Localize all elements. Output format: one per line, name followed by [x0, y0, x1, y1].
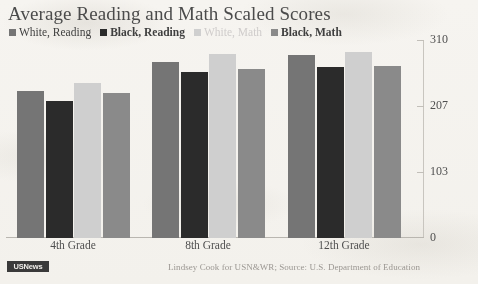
y-axis-tick-mark: [417, 172, 424, 173]
square-swatch-icon: [271, 29, 278, 36]
plot-area: 4th Grade8th Grade12th Grade: [0, 40, 424, 238]
chart-legend: White, ReadingBlack, ReadingWhite, MathB…: [9, 27, 342, 39]
bar-group: [17, 40, 129, 238]
legend-item[interactable]: Black, Math: [271, 27, 342, 39]
bar[interactable]: [103, 93, 130, 238]
bar[interactable]: [46, 101, 73, 238]
bar[interactable]: [209, 54, 236, 238]
bar[interactable]: [17, 91, 44, 238]
legend-item-label: Black, Reading: [110, 27, 185, 39]
y-axis-tick-label: 0: [430, 230, 436, 245]
legend-item-label: Black, Math: [281, 27, 342, 39]
bar[interactable]: [74, 83, 101, 238]
bar[interactable]: [238, 69, 265, 238]
page-title: Average Reading and Math Scaled Scores: [8, 3, 331, 25]
bar-group: [152, 40, 264, 238]
chart-screenshot: Average Reading and Math Scaled Scores W…: [0, 0, 478, 284]
y-axis-tick-label: 103: [430, 164, 448, 179]
y-axis-line: [423, 40, 424, 238]
usnews-logo: USNews: [7, 261, 49, 272]
square-swatch-icon: [9, 29, 16, 36]
bar[interactable]: [374, 66, 401, 238]
bar[interactable]: [345, 52, 372, 238]
legend-item[interactable]: White, Math: [194, 27, 262, 39]
bar[interactable]: [181, 72, 208, 238]
legend-item[interactable]: Black, Reading: [100, 27, 185, 39]
x-axis-group-label: 8th Grade: [152, 239, 264, 251]
chart-credit: Lindsey Cook for USN&WR; Source: U.S. De…: [168, 262, 420, 272]
square-swatch-icon: [100, 29, 107, 36]
legend-item-label: White, Math: [204, 27, 262, 39]
x-axis-group-label: 12th Grade: [288, 239, 400, 251]
legend-item[interactable]: White, Reading: [9, 27, 91, 39]
bar[interactable]: [288, 55, 315, 238]
x-axis-group-label: 4th Grade: [17, 239, 129, 251]
bar[interactable]: [317, 67, 344, 238]
y-axis-tick-mark: [417, 106, 424, 107]
y-axis-tick-label: 207: [430, 98, 448, 113]
legend-item-label: White, Reading: [19, 27, 91, 39]
square-swatch-icon: [194, 29, 201, 36]
bar[interactable]: [152, 62, 179, 238]
y-axis-tick-label: 310: [430, 32, 448, 47]
y-axis-tick-mark: [417, 40, 424, 41]
bar-group: [288, 40, 400, 238]
